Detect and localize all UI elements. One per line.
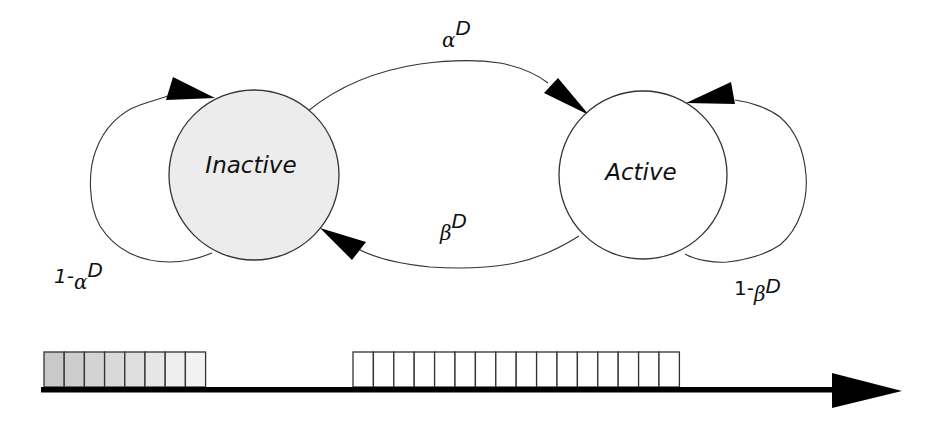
label-symbol-beta: β (753, 282, 766, 306)
state-active-label: Active (603, 159, 677, 185)
arrowhead-icon (320, 228, 366, 260)
timeline-cell (516, 352, 536, 387)
timeline-cell (84, 352, 104, 387)
label-prefix: 1- (54, 264, 74, 288)
label-active-self-loop: 1-βD (734, 274, 781, 306)
label-symbol-alpha: α (74, 270, 88, 294)
state-inactive: Inactive (169, 90, 339, 260)
timeline-cell (475, 352, 495, 387)
timeline-cell (125, 352, 145, 387)
timeline-cell (659, 352, 679, 387)
timeline-cell (165, 352, 185, 387)
timeline-cell (618, 352, 638, 387)
state-active: Active (559, 91, 727, 259)
timeline-cell (373, 352, 393, 387)
label-superscript: D (452, 209, 467, 233)
label-superscript: D (766, 274, 781, 298)
state-inactive-label: Inactive (205, 152, 296, 178)
timeline-cell (435, 352, 455, 387)
edge-inactive-to-active (308, 61, 589, 115)
edge-active-to-inactive-path (358, 236, 579, 268)
label-symbol-beta: β (439, 221, 452, 245)
timeline-cell (185, 352, 205, 387)
timeline-axis-line (41, 387, 837, 393)
timeline-cell (394, 352, 414, 387)
label-superscript: D (456, 16, 471, 40)
timeline-active-block (353, 352, 679, 387)
label-symbol-alpha: α (442, 28, 456, 52)
timeline-cell (496, 352, 516, 387)
timeline-cell (145, 352, 165, 387)
label-active-to-inactive: βD (439, 209, 467, 245)
timeline-cell (598, 352, 618, 387)
timeline-cell (414, 352, 434, 387)
label-superscript: D (87, 258, 102, 282)
timeline-cell (639, 352, 659, 387)
timeline-cell (44, 352, 64, 387)
timeline-cell (557, 352, 577, 387)
arrowhead-icon (544, 78, 589, 115)
timeline-cell (537, 352, 557, 387)
label-inactive-self-loop: 1-αD (54, 258, 103, 294)
timeline-cell (353, 352, 373, 387)
label-inactive-to-active: αD (442, 16, 471, 52)
arrowhead-icon (166, 77, 215, 100)
label-prefix: 1- (734, 276, 754, 300)
arrowhead-icon (686, 82, 735, 104)
state-diagram: Inactive Active 1-αD αD βD 1-βD (0, 0, 941, 429)
timeline-cell (64, 352, 84, 387)
timeline-arrowhead-icon (832, 373, 902, 408)
timeline-cell (577, 352, 597, 387)
edge-inactive-to-active-path (308, 61, 548, 111)
timeline-cell (105, 352, 125, 387)
timeline-cell (455, 352, 475, 387)
timeline-inactive-block (44, 352, 206, 387)
